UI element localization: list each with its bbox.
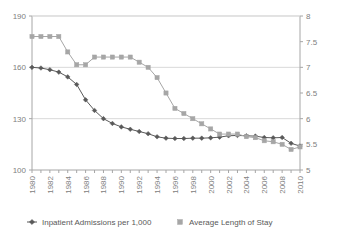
x-axis-tick-label: 1980 <box>28 175 37 193</box>
left-axis-tick-label: 130 <box>13 115 27 124</box>
x-axis-tick-label: 1990 <box>117 175 126 193</box>
data-point-marker <box>191 136 196 141</box>
right-axis-ticks: 55.566.577.58 <box>300 12 318 175</box>
x-axis-tick-label: 2010 <box>296 175 305 193</box>
data-point-marker <box>137 129 142 134</box>
x-axis-tick-label: 2004 <box>242 175 251 193</box>
left-axis-tick-label: 100 <box>13 166 27 175</box>
data-point-marker <box>110 55 114 59</box>
left-axis-ticks: 100130160190 <box>13 12 32 175</box>
data-point-marker <box>244 135 248 139</box>
chart-container: 10013016019055.566.577.58198019821984198… <box>0 0 338 240</box>
data-point-marker <box>119 125 124 130</box>
gridlines <box>32 16 300 119</box>
left-axis-tick-label: 160 <box>13 63 27 72</box>
legend-item-average-length-of-stay[interactable]: Average Length of Stay <box>178 218 273 227</box>
data-point-marker <box>48 34 52 38</box>
x-axis-tick-label: 1984 <box>64 175 73 193</box>
x-axis-tick-label: 1988 <box>99 175 108 193</box>
data-point-marker <box>155 76 159 80</box>
dual-axis-line-chart: 10013016019055.566.577.58198019821984198… <box>0 0 338 240</box>
right-axis-tick-label: 6.5 <box>306 89 318 98</box>
data-point-marker <box>164 136 169 141</box>
data-point-marker <box>164 91 168 95</box>
x-axis-tick-label: 1986 <box>82 175 91 193</box>
x-axis-tick-label: 2000 <box>207 175 216 193</box>
data-point-marker <box>173 106 177 110</box>
data-point-marker <box>271 140 275 144</box>
data-point-marker <box>200 122 204 126</box>
data-point-marker <box>30 34 34 38</box>
legend: Inpatient Admissions per 1,000Average Le… <box>27 218 272 227</box>
data-point-marker <box>39 66 44 71</box>
data-point-marker <box>30 65 35 70</box>
data-point-marker <box>199 136 204 141</box>
data-point-marker <box>128 127 133 132</box>
x-axis-tick-label: 1982 <box>46 175 55 193</box>
data-point-marker <box>209 127 213 131</box>
data-point-marker <box>280 142 284 146</box>
right-axis-tick-label: 7 <box>306 63 311 72</box>
data-point-marker <box>110 121 115 126</box>
data-point-marker <box>298 145 302 149</box>
x-axis-tick-label: 2002 <box>225 175 234 193</box>
data-point-marker <box>57 34 61 38</box>
x-axis-tick-label: 1996 <box>171 175 180 193</box>
x-axis-tick-label: 2008 <box>278 175 287 193</box>
legend-marker-square <box>178 220 183 225</box>
series-inpatient-admissions <box>30 65 303 148</box>
data-point-marker <box>137 60 141 64</box>
data-point-marker <box>235 132 239 136</box>
legend-label: Inpatient Admissions per 1,000 <box>42 218 152 227</box>
data-point-marker <box>39 34 43 38</box>
series-line <box>32 67 300 146</box>
data-point-marker <box>182 111 186 115</box>
data-point-marker <box>155 135 160 140</box>
right-axis-tick-label: 7.5 <box>306 38 318 47</box>
right-axis-tick-label: 8 <box>306 12 311 21</box>
data-point-marker <box>84 63 88 67</box>
data-point-marker <box>289 147 293 151</box>
legend-marker-diamond <box>29 219 34 224</box>
data-point-marker <box>173 136 178 141</box>
right-axis-tick-label: 5.5 <box>306 140 318 149</box>
legend-item-inpatient-admissions[interactable]: Inpatient Admissions per 1,000 <box>27 218 152 227</box>
x-axis-tick-label: 1992 <box>135 175 144 193</box>
x-axis-tick-label: 2006 <box>260 175 269 193</box>
x-axis-tick-label: 1998 <box>189 175 198 193</box>
right-axis-tick-label: 5 <box>306 166 311 175</box>
data-point-marker <box>182 136 187 141</box>
data-point-marker <box>146 131 151 136</box>
data-point-marker <box>66 50 70 54</box>
left-axis-tick-label: 190 <box>13 12 27 21</box>
data-point-marker <box>119 55 123 59</box>
data-point-marker <box>208 136 213 141</box>
x-axis-tick-label: 1994 <box>153 175 162 193</box>
data-point-marker <box>101 55 105 59</box>
data-point-marker <box>92 55 96 59</box>
legend-label: Average Length of Stay <box>189 218 272 227</box>
data-point-marker <box>253 136 257 140</box>
data-point-marker <box>226 132 230 136</box>
data-point-marker <box>75 63 79 67</box>
data-point-marker <box>48 67 53 72</box>
data-point-marker <box>191 117 195 121</box>
data-point-marker <box>218 132 222 136</box>
data-point-marker <box>57 70 62 75</box>
data-point-marker <box>128 55 132 59</box>
right-axis-tick-label: 6 <box>306 115 311 124</box>
data-point-marker <box>262 139 266 143</box>
x-axis-ticks: 1980198219841986198819901992199419961998… <box>28 170 305 194</box>
data-point-marker <box>146 65 150 69</box>
series-average-length-of-stay <box>30 34 302 151</box>
